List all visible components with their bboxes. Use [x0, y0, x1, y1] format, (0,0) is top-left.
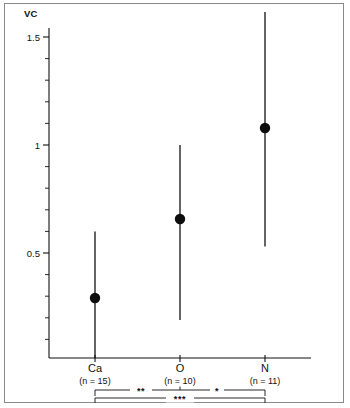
data-point-N[interactable] — [260, 123, 270, 133]
y-tick-label-1.5: 1.5 — [27, 32, 40, 43]
x-group-count-O: (n = 10) — [164, 376, 195, 386]
x-group-count-Ca: (n = 15) — [79, 376, 110, 386]
significance-stars-Ca-O: ** — [137, 386, 145, 396]
y-axis-title: VC — [24, 8, 38, 19]
data-point-O[interactable] — [175, 214, 185, 224]
y-tick-label-0.5: 0.5 — [27, 248, 40, 259]
significance-stars-Ca-N: *** — [174, 394, 186, 404]
x-category-label-N: N — [261, 362, 269, 374]
x-category-label-O: O — [176, 362, 185, 374]
data-point-Ca[interactable] — [90, 293, 100, 303]
x-category-label-Ca: Ca — [88, 362, 103, 374]
chart-plot-area: VC 1.5 1 0.5 Ca (n = 15) O (n = 10) N (n… — [0, 0, 350, 408]
y-tick-label-1: 1 — [35, 140, 40, 151]
figure-container: VC 1.5 1 0.5 Ca (n = 15) O (n = 10) N (n… — [0, 0, 350, 408]
significance-stars-O-N: * — [215, 386, 219, 396]
x-group-count-N: (n = 11) — [250, 376, 281, 386]
